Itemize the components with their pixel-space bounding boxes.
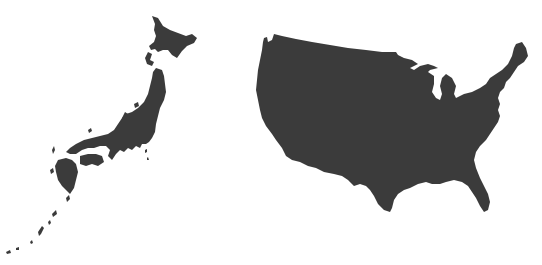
japan-tanegashima-landmass xyxy=(66,195,70,202)
japan-yaeyama-1-landmass xyxy=(16,247,19,250)
japan-oki-landmass xyxy=(88,128,92,133)
usa-contiguous-us-landmass xyxy=(256,34,528,212)
japan-yaeyama-2-landmass xyxy=(6,250,11,254)
japan-kyushu-landmass xyxy=(55,158,78,194)
japan-goto-landmass xyxy=(50,168,54,174)
japan-miyako-landmass xyxy=(30,240,33,244)
japan-hokkaido-landmass xyxy=(149,16,197,58)
japan-shikoku-landmass xyxy=(80,154,104,166)
japan-honshu-landmass xyxy=(66,68,166,160)
japan-sado-landmass xyxy=(134,102,139,108)
japan-okinawa-1-landmass xyxy=(48,220,51,225)
japan-silhouette xyxy=(6,16,197,254)
japan-tsushima-landmass xyxy=(52,146,55,154)
japan-izu-1-landmass xyxy=(145,149,147,153)
japan-izu-2-landmass xyxy=(147,157,149,160)
japan-amami-landmass xyxy=(52,210,57,217)
usa-silhouette xyxy=(256,34,528,212)
japan-oshima-peninsula-landmass xyxy=(145,52,154,66)
map-canvas xyxy=(0,0,542,265)
japan-okinawa-2-landmass xyxy=(38,226,44,236)
